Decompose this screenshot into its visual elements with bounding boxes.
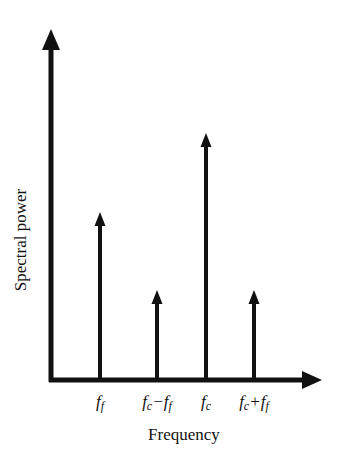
x-axis-label: Frequency (148, 425, 220, 445)
stem-arrowhead-icon (152, 290, 163, 304)
y-axis-label: Spectral power (11, 189, 31, 291)
stem-ff (95, 212, 106, 378)
y-axis-arrowhead-icon (42, 29, 60, 50)
stem-arrowhead-icon (95, 212, 106, 226)
x-axis (49, 371, 322, 389)
x-tick-label: ff (96, 392, 104, 414)
stem-fc-plus-ff (249, 290, 260, 378)
stem-arrowhead-icon (249, 290, 260, 304)
x-tick-label: fc (201, 392, 211, 414)
stem-fc (201, 133, 212, 378)
x-tick-label: fc+ff (239, 392, 269, 414)
y-axis (42, 29, 60, 382)
x-tick-label: fc−ff (142, 392, 172, 414)
spectral-lines (95, 133, 260, 378)
stem-fc-minus-ff (152, 290, 163, 378)
x-axis-arrowhead-icon (302, 371, 322, 389)
stem-arrowhead-icon (201, 133, 212, 147)
